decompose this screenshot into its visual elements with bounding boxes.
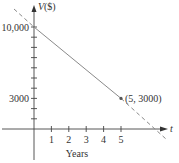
x-axis-symbol: t (170, 123, 173, 134)
chart-canvas: V ($) 10,000 3000 1 2 3 4 5 Years t (5, … (0, 0, 179, 163)
point-label: (5, 3000) (125, 93, 162, 105)
y-tick-label-3000: 3000 (9, 93, 29, 104)
dashed-line-right (121, 98, 166, 139)
x-tick-label-3: 3 (84, 134, 89, 145)
x-tick-label-2: 2 (66, 134, 71, 145)
solid-line (34, 27, 121, 98)
data-point (119, 97, 122, 100)
y-axis-arrow-icon (32, 5, 37, 12)
x-axis-title: Years (66, 148, 88, 159)
x-tick-label-5: 5 (119, 134, 124, 145)
y-axis-unit: ($) (44, 1, 56, 13)
x-tick-label-4: 4 (101, 134, 106, 145)
x-tick-label-1: 1 (49, 134, 54, 145)
x-axis-arrow-icon (160, 127, 168, 132)
y-tick-label-10000: 10,000 (2, 22, 30, 33)
